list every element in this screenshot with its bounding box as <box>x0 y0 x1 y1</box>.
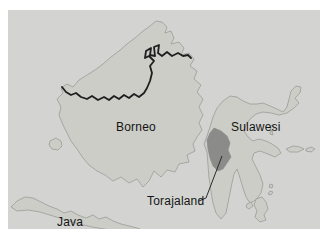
sulawesi-label: Sulawesi <box>231 121 281 133</box>
borneo-label: Borneo <box>116 121 156 133</box>
tiny-island-3 <box>269 184 273 188</box>
torajaland-label: Torajaland <box>147 195 204 207</box>
java-label: Java <box>57 216 83 228</box>
map-figure: Borneo Sulawesi Torajaland Java <box>0 0 327 241</box>
